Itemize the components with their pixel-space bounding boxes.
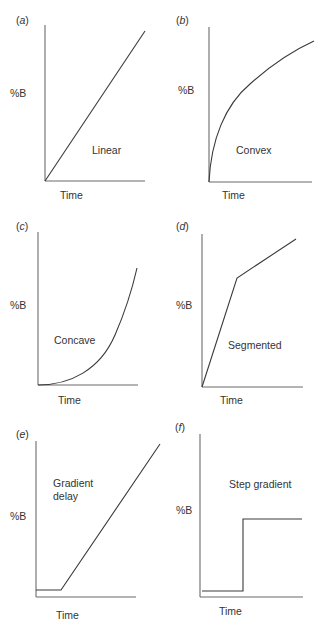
profile-name-label: Convex [236, 144, 272, 156]
panel-d-segmented: (d) %B Time Segmented [176, 220, 303, 406]
y-axis-label: %B [176, 504, 192, 516]
profile-name-label: Linear [92, 144, 122, 156]
panel-a-linear: (a) %B Time Linear [10, 14, 145, 201]
profile-name-label-line1: Gradient [53, 477, 93, 489]
y-axis-label: %B [176, 299, 192, 311]
delayed-gradient-line [36, 444, 160, 590]
panel-letter-label: (e) [16, 428, 29, 440]
panel-letter-label: (c) [16, 220, 28, 232]
profile-name-label: Step gradient [229, 478, 292, 490]
x-axis-label: Time [58, 394, 81, 406]
concave-gradient-curve [38, 268, 137, 385]
profile-name-label: Segmented [228, 339, 282, 351]
profile-name-label-line2: delay [53, 490, 79, 502]
panel-f-step-gradient: (f) %B Time Step gradient [175, 421, 303, 617]
panel-e-gradient-delay: (e) %B Time Gradient delay [10, 428, 160, 621]
panel-c-concave: (c) %B Time Concave [10, 220, 138, 406]
convex-gradient-curve [209, 41, 314, 182]
x-axis-label: Time [222, 189, 245, 201]
step-gradient-line [202, 519, 302, 591]
y-axis-label: %B [178, 84, 194, 96]
y-axis-label: %B [10, 510, 26, 522]
x-axis-label: Time [56, 609, 79, 621]
panel-b-convex: (b) %B Time Convex [176, 14, 314, 201]
y-axis-label: %B [10, 299, 26, 311]
panel-letter-label: (d) [176, 220, 189, 232]
y-axis-label: %B [10, 87, 26, 99]
segmented-gradient-line [202, 239, 296, 387]
panel-letter-label: (a) [16, 14, 29, 26]
panel-letter-label: (f) [175, 421, 185, 433]
linear-gradient-line [45, 31, 145, 181]
profile-name-label: Concave [54, 334, 96, 346]
x-axis-label: Time [60, 189, 83, 201]
panel-letter-label: (b) [176, 14, 189, 26]
x-axis-label: Time [220, 394, 243, 406]
x-axis-label: Time [219, 605, 242, 617]
gradient-profiles-diagram: (a) %B Time Linear (b) %B Time Convex (c… [0, 0, 321, 625]
